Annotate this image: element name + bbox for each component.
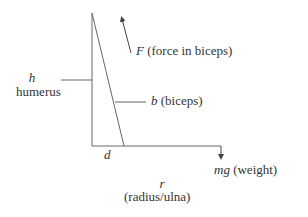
forearm-name: (radius/ulna) (124, 190, 190, 204)
weight-description: (weight) (233, 162, 277, 177)
biceps-label: b (biceps) (151, 94, 203, 108)
biceps-description: (biceps) (161, 93, 203, 108)
d-label: d (104, 148, 111, 162)
humerus-symbol: h (29, 70, 36, 85)
biceps-symbol: b (151, 93, 158, 108)
weight-label: mg (weight) (214, 163, 277, 177)
force-arrow (122, 19, 131, 53)
force-description: (force in biceps) (147, 43, 232, 58)
humerus-name: humerus (16, 85, 61, 99)
force-label: F (force in biceps) (136, 44, 232, 58)
humerus-symbol-label: h (14, 71, 50, 85)
weight-symbol: mg (214, 162, 230, 177)
biceps-line (92, 13, 124, 146)
force-symbol: F (136, 43, 144, 58)
